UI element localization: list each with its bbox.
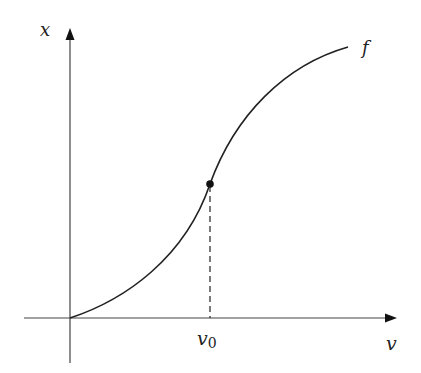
x-axis-label: v <box>386 332 397 354</box>
curve-label-f: f <box>360 37 372 58</box>
x-axis-arrow-icon <box>385 314 397 323</box>
v0-label-main: v <box>197 327 208 349</box>
y-axis-arrow-icon <box>66 28 75 40</box>
v0-label-sub: 0 <box>208 335 217 351</box>
inflection-point <box>206 180 214 188</box>
y-axis-label: x <box>40 19 50 40</box>
v0-label: v0 <box>197 327 217 351</box>
diagram-canvas: x v f v0 <box>0 0 421 373</box>
